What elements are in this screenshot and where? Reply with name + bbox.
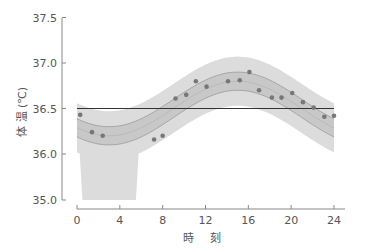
x-tick-label: 16 xyxy=(241,214,255,227)
x-tick-label: 8 xyxy=(159,214,166,227)
data-point xyxy=(237,78,242,83)
data-point xyxy=(90,130,95,135)
data-point xyxy=(270,95,275,100)
x-tick-label: 0 xyxy=(74,214,81,227)
data-point xyxy=(311,105,316,110)
data-point xyxy=(78,113,83,118)
data-point xyxy=(160,134,165,139)
data-point xyxy=(279,95,284,100)
data-point xyxy=(322,114,327,119)
y-tick-label: 36.0 xyxy=(33,148,58,161)
data-point xyxy=(226,79,231,84)
y-tick-label: 37.5 xyxy=(33,12,58,25)
x-tick-label: 20 xyxy=(284,214,298,227)
confidence-bands xyxy=(77,57,334,200)
data-point xyxy=(204,84,209,89)
data-point xyxy=(332,113,337,118)
x-axis: 04812162024 xyxy=(74,205,346,227)
x-tick-label: 24 xyxy=(327,214,341,227)
y-tick-label: 35.0 xyxy=(33,194,58,207)
data-point xyxy=(184,93,189,98)
chart: 35.036.036.537.037.5 04812162024 時 刻 体 温… xyxy=(0,0,365,248)
y-axis: 35.036.036.537.037.5 xyxy=(33,12,67,208)
data-point xyxy=(247,70,252,75)
x-axis-label: 時 刻 xyxy=(183,231,227,245)
x-tick-label: 4 xyxy=(116,214,123,227)
data-point xyxy=(301,100,306,105)
y-tick-label: 37.0 xyxy=(33,57,58,70)
data-point xyxy=(194,79,199,84)
data-point xyxy=(257,88,262,93)
y-tick-label: 36.5 xyxy=(33,103,58,116)
data-point xyxy=(152,137,157,142)
data-point xyxy=(173,96,178,101)
data-point xyxy=(100,134,105,139)
x-tick-label: 12 xyxy=(199,214,213,227)
data-point xyxy=(290,91,295,96)
y-axis-label: 体 温 (℃) xyxy=(15,87,29,137)
